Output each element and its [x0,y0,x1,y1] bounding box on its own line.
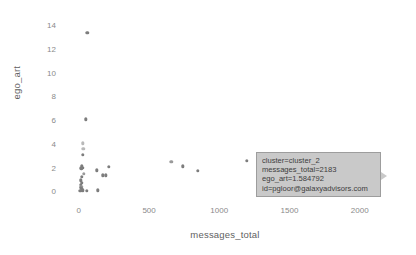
data-point[interactable] [196,169,199,172]
tooltip-line-0: cluster=cluster_2 [262,156,376,165]
x-axis-ticks: 0500100015002000 [0,206,416,220]
data-point[interactable] [85,189,88,192]
data-point[interactable] [169,160,172,163]
data-point[interactable] [81,153,84,156]
data-point[interactable] [82,172,85,175]
data-point[interactable] [84,117,87,120]
point-tooltip: cluster=cluster_2messages_total=2183ego_… [256,152,381,197]
tooltip-line-1: messages_total=2183 [262,165,376,174]
data-point[interactable] [95,168,98,171]
x-tick-label-3: 1500 [281,206,299,215]
data-point[interactable] [107,165,110,168]
data-point[interactable] [181,165,184,168]
data-point[interactable] [79,189,82,192]
data-point[interactable] [81,142,84,145]
x-tick-label-1: 500 [142,206,155,215]
data-point[interactable] [86,31,89,34]
scatter-chart: ego_art 02468101214 0500100015002000 mes… [0,0,416,255]
tooltip-line-3: id=pgloor@galaxyadvisors.com [262,184,376,193]
data-point[interactable] [80,166,83,169]
data-point[interactable] [96,189,99,192]
data-point[interactable] [104,174,107,177]
data-point[interactable] [82,147,85,150]
tooltip-line-2: ego_art=1.584792 [262,174,376,183]
x-tick-label-4: 2000 [351,206,369,215]
x-axis-title: messages_total [0,229,416,240]
tooltip-pointer-icon [381,172,387,180]
x-tick-label-0: 0 [77,206,81,215]
data-point[interactable] [245,159,248,162]
x-tick-label-2: 1000 [210,206,228,215]
